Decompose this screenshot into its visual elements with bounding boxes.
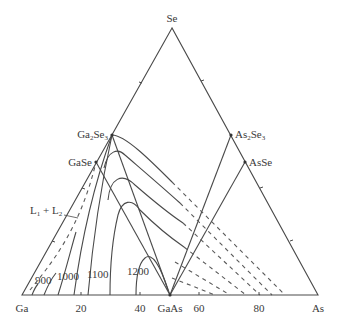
label-l1-l2: L1 + L2	[30, 204, 63, 218]
axis-tick-80: 80	[254, 302, 266, 314]
label-ga2se3: Ga2Se3	[77, 128, 108, 142]
label-as2se3: As2Se3	[235, 128, 266, 142]
axis-tick-20: 20	[76, 302, 88, 314]
vertex-se: Se	[167, 12, 178, 24]
dashed-extensions	[172, 182, 285, 295]
ternary-frame	[22, 28, 318, 295]
vertex-as: As	[312, 302, 324, 314]
axis-tick-40: 40	[135, 302, 147, 314]
ternary-phase-diagram: Se Ga As Ga2Se3 GaSe As2Se3 AsSe GaAs L1…	[0, 0, 339, 331]
vertex-ga: Ga	[16, 302, 29, 314]
label-gase: GaSe	[68, 156, 92, 168]
label-asse: AsSe	[249, 156, 272, 168]
label-gaas: GaAs	[157, 302, 182, 314]
isotherm-1100: 1100	[87, 268, 109, 280]
isotherm-900: 900	[35, 274, 52, 286]
isotherm-1000: 1000	[57, 270, 80, 282]
axis-tick-60: 60	[194, 302, 206, 314]
side-ticks	[52, 80, 293, 295]
isotherm-1200: 1200	[127, 265, 150, 277]
compound-points	[94, 133, 246, 296]
